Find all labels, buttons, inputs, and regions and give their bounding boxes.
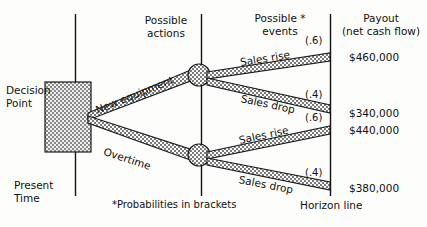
column-heading-possible-actions: Possible actions bbox=[120, 14, 212, 39]
column-heading-possible-events: Possible * events bbox=[232, 12, 328, 37]
horizon-line-label: Horizon line bbox=[300, 199, 362, 211]
decision-point-label: Decision Point bbox=[6, 84, 74, 109]
payout-overtime-sales-rise: $440,000 bbox=[349, 124, 399, 136]
present-time-label: Present Time bbox=[14, 179, 78, 204]
probability-new-equipment-sales-rise: (.6) bbox=[305, 35, 322, 47]
footnote-probabilities: *Probabilities in brackets bbox=[112, 199, 236, 211]
column-heading-payout: Payout (net cash flow) bbox=[336, 12, 426, 37]
probability-overtime-sales-drop: (.4) bbox=[305, 167, 322, 179]
payout-new-equipment-sales-rise: $460,000 bbox=[349, 51, 399, 63]
payout-overtime-sales-drop: $380,000 bbox=[349, 182, 399, 194]
probability-new-equipment-sales-drop: (.4) bbox=[305, 89, 322, 101]
decision-tree-diagram: Possible actions Possible * events Payou… bbox=[0, 0, 427, 227]
payout-new-equipment-sales-drop: $340,000 bbox=[349, 107, 399, 119]
probability-overtime-sales-rise: (.6) bbox=[305, 112, 322, 124]
